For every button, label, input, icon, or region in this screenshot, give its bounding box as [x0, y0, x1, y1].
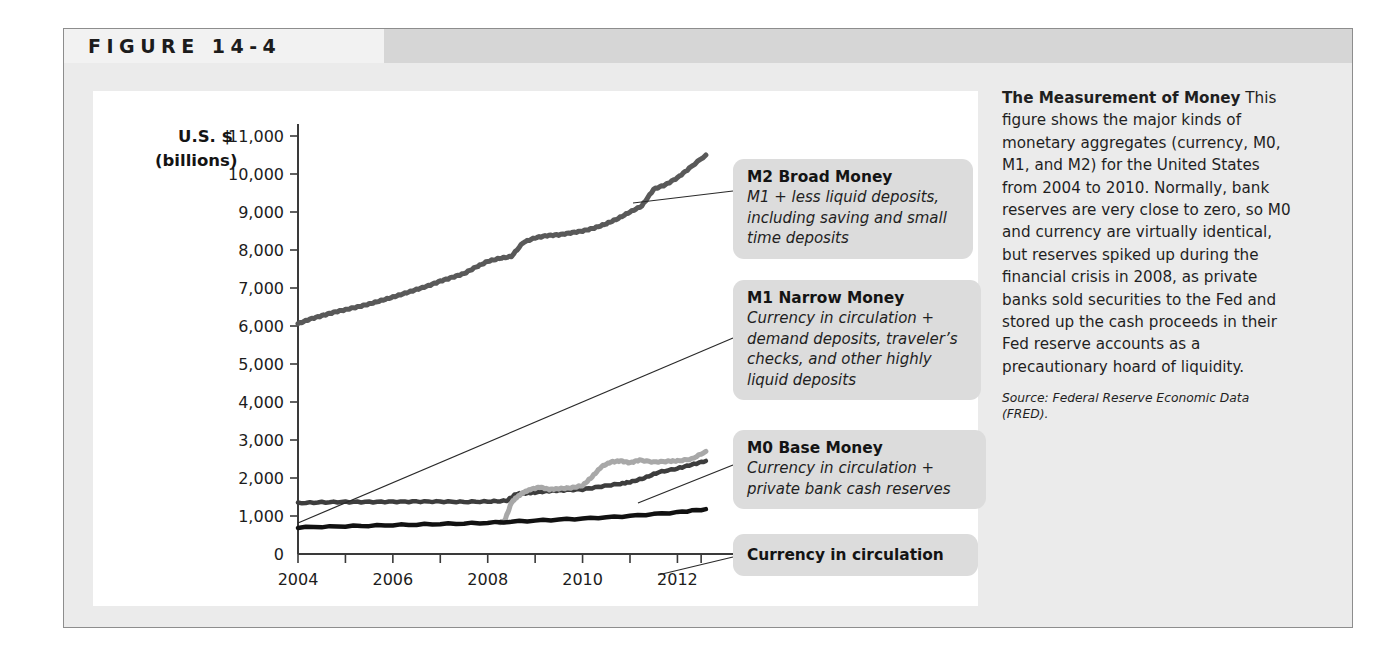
x-tick-label: 2012: [657, 570, 698, 589]
x-tick-label: 2004: [278, 570, 319, 589]
callout-m2-desc: M1 + less liquid deposits, including sav…: [747, 187, 959, 249]
callout-m2-title: M2 Broad Money: [747, 167, 959, 187]
figure-number-label: FIGURE 14-4: [88, 35, 281, 57]
y-axis-unit-line1: U.S. $: [178, 127, 233, 146]
callout-m1-title: M1 Narrow Money: [747, 288, 967, 308]
y-tick-label: 1,000: [238, 507, 284, 526]
caption-source: Source: Federal Reserve Economic Data (F…: [1002, 390, 1297, 422]
figure-container: FIGURE 14-4 01,0002,0003,0004,0005,0006,…: [63, 28, 1353, 628]
y-tick-label: 5,000: [238, 355, 284, 374]
y-tick-label: 0: [274, 545, 284, 564]
y-tick-label: 6,000: [238, 317, 284, 336]
callout-m1-desc: Currency in circulation + demand deposit…: [747, 308, 967, 390]
y-tick-label: 2,000: [238, 469, 284, 488]
callout-m0: M0 Base Money Currency in circulation + …: [733, 430, 986, 509]
x-tick-label: 2008: [467, 570, 508, 589]
figure-header-band: FIGURE 14-4: [64, 29, 1352, 63]
y-tick-label: 7,000: [238, 279, 284, 298]
chart-panel: 01,0002,0003,0004,0005,0006,0007,0008,00…: [93, 91, 978, 606]
callout-m1: M1 Narrow Money Currency in circulation …: [733, 280, 981, 400]
y-tick-label: 3,000: [238, 431, 284, 450]
callout-m2: M2 Broad Money M1 + less liquid deposits…: [733, 159, 973, 259]
y-tick-label: 8,000: [238, 241, 284, 260]
y-tick-label: 11,000: [228, 127, 284, 146]
callout-m0-desc: Currency in circulation + private bank c…: [747, 458, 972, 499]
y-axis-unit-line2: (billions): [155, 151, 237, 170]
callout-currency-title: Currency in circulation: [747, 545, 964, 565]
x-tick-label: 2010: [562, 570, 603, 589]
y-tick-label: 9,000: [238, 203, 284, 222]
y-tick-label: 4,000: [238, 393, 284, 412]
caption-text: The Measurement of Money This figure sho…: [1002, 87, 1297, 378]
caption-body-text: This figure shows the major kinds of mon…: [1002, 89, 1291, 376]
callout-m0-title: M0 Base Money: [747, 438, 972, 458]
series-line-m2-broad-money: [298, 155, 706, 324]
x-tick-label: 2006: [372, 570, 413, 589]
series-line-m1-narrow-money: [298, 461, 706, 503]
callout-currency: Currency in circulation: [733, 534, 978, 576]
figure-root: FIGURE 14-4 01,0002,0003,0004,0005,0006,…: [0, 0, 1377, 659]
caption-lead: The Measurement of Money: [1002, 89, 1240, 107]
caption-column: The Measurement of Money This figure sho…: [1002, 87, 1297, 422]
series-line-currency-in-circulation: [298, 509, 706, 528]
